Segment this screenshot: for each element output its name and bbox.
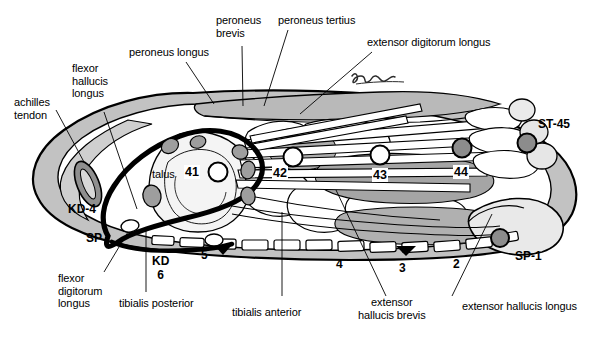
point-label-4: 4 <box>336 258 343 271</box>
point-label-5: 5 <box>201 249 208 262</box>
point-label-SP: SP <box>86 232 102 245</box>
peroneus-longus-leader <box>186 62 214 104</box>
peroneus-tertius-leader <box>264 30 288 106</box>
label-talus: talus <box>152 168 175 181</box>
point-label-KD-4: KD-4 <box>68 203 96 216</box>
point-label-SP-1: SP-1 <box>515 250 542 263</box>
label-tibialis-posterior: tibialis posterior <box>119 297 194 310</box>
point-label-ST-45: ST-45 <box>538 118 570 131</box>
figure-canvas: achilles tendon flexor hallucis longus p… <box>0 0 603 344</box>
label-peroneus-brevis: peroneus brevis <box>216 14 261 39</box>
point-label-43: 43 <box>372 168 388 182</box>
point-label-42: 42 <box>272 166 288 180</box>
label-achilles-tendon: achilles tendon <box>14 96 50 121</box>
flexor-digitorum-longus-leader <box>104 232 128 272</box>
point-label-KD-6: KD 6 <box>152 254 169 282</box>
label-extensor-digitorum-longus: extensor digitorum longus <box>367 36 490 49</box>
point-label-44: 44 <box>453 165 469 179</box>
label-tibialis-anterior: tibialis anterior <box>232 306 301 319</box>
point-label-3: 3 <box>399 262 406 275</box>
extensor-digitorum-longus-leader <box>300 52 372 114</box>
extensor-hallucis-longus-leader <box>452 214 492 296</box>
label-flexor-hallucis-longus: flexor hallucis longus <box>72 62 108 100</box>
label-peroneus-tertius: peroneus tertius <box>278 14 355 27</box>
flexor-hallucis-longus-leader <box>104 112 137 209</box>
label-extensor-hallucis-longus: extensor hallucis longus <box>462 300 577 313</box>
extensor-hallucis-brevis-leader <box>336 190 386 296</box>
point-label-2: 2 <box>453 258 460 271</box>
point-label-41: 41 <box>184 165 200 179</box>
label-peroneus-longus: peroneus longus <box>129 46 209 59</box>
peroneus-brevis-leader <box>242 46 243 106</box>
label-flexor-digitorum-longus: flexor digitorum longus <box>58 272 102 310</box>
label-extensor-hallucis-brevis: extensor hallucis brevis <box>358 296 426 321</box>
achilles-tendon-leader <box>56 110 84 162</box>
